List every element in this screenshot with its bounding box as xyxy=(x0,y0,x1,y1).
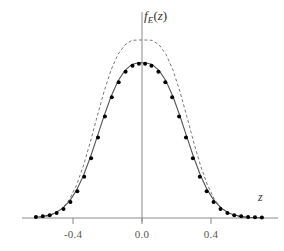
dashed-curve xyxy=(35,40,263,218)
solid-curve xyxy=(35,63,263,218)
x-axis-tick-label: 0.4 xyxy=(204,228,218,240)
data-point xyxy=(205,189,209,193)
y-axis-label: fE(z) xyxy=(144,8,167,25)
data-point xyxy=(82,175,86,179)
data-points xyxy=(34,62,264,220)
data-point xyxy=(89,156,93,160)
data-point xyxy=(48,213,52,217)
data-point xyxy=(41,214,45,218)
data-point xyxy=(184,136,188,140)
data-point xyxy=(131,64,135,68)
data-point xyxy=(124,70,128,74)
data-point xyxy=(246,215,250,219)
data-point xyxy=(170,95,174,99)
data-point xyxy=(143,62,147,66)
data-point xyxy=(163,80,167,84)
data-point xyxy=(96,136,100,140)
data-point xyxy=(218,207,222,211)
data-point xyxy=(149,64,153,68)
data-point xyxy=(110,95,114,99)
data-point xyxy=(177,115,181,119)
chart-figure: fE(z) z -0.40.00.4 xyxy=(0,0,284,251)
data-point xyxy=(253,215,257,219)
axes-group xyxy=(22,12,278,222)
data-point xyxy=(103,115,107,119)
data-point xyxy=(156,70,160,74)
data-point xyxy=(232,213,236,217)
data-point xyxy=(117,80,121,84)
data-point xyxy=(225,211,229,215)
y-axis-label-close-paren: ) xyxy=(163,8,167,23)
data-point xyxy=(260,215,264,219)
data-point xyxy=(191,156,195,160)
data-point xyxy=(62,207,66,211)
data-point xyxy=(75,189,79,193)
data-point xyxy=(239,214,243,218)
data-point xyxy=(55,211,59,215)
data-point xyxy=(212,200,216,204)
data-point xyxy=(198,175,202,179)
data-point xyxy=(34,215,38,219)
x-axis-tick-label: 0.0 xyxy=(135,228,149,240)
data-point xyxy=(68,200,72,204)
plot-canvas xyxy=(0,0,284,251)
x-axis-ticks xyxy=(73,218,211,224)
x-axis-tick-label: -0.4 xyxy=(64,228,82,240)
x-axis-label: z xyxy=(258,190,263,205)
data-point xyxy=(137,62,141,66)
